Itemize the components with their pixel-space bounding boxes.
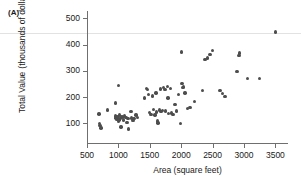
data-point bbox=[218, 89, 221, 92]
x-axis-tick-label: 3500 bbox=[258, 150, 292, 160]
data-point bbox=[117, 118, 120, 121]
y-axis-tick-label: 400 bbox=[54, 39, 80, 49]
y-axis-tick-label: 500 bbox=[54, 13, 80, 23]
data-point bbox=[125, 121, 128, 124]
data-point bbox=[152, 108, 155, 111]
data-point bbox=[208, 53, 211, 56]
y-axis-title: Total Value (thousands of dollars) bbox=[2, 0, 42, 110]
data-point bbox=[120, 115, 123, 118]
x-axis-tick-label: 1500 bbox=[133, 150, 167, 160]
x-axis-tick bbox=[213, 144, 214, 148]
data-point bbox=[114, 101, 117, 104]
data-point bbox=[114, 114, 117, 117]
data-point bbox=[146, 88, 149, 91]
data-point bbox=[163, 88, 166, 91]
data-point bbox=[182, 85, 185, 88]
data-point bbox=[155, 110, 158, 113]
x-axis-line bbox=[87, 143, 288, 144]
data-point bbox=[164, 109, 167, 112]
data-point bbox=[98, 122, 101, 125]
y-axis-tick bbox=[83, 97, 87, 98]
data-point bbox=[131, 119, 134, 122]
x-axis-tick bbox=[181, 144, 182, 148]
data-point bbox=[116, 117, 119, 120]
data-point bbox=[238, 51, 241, 54]
y-axis-title-line2: (thousands of dollars) bbox=[17, 0, 27, 69]
data-point bbox=[123, 114, 126, 117]
data-point bbox=[173, 103, 176, 106]
y-axis-title-line1: Total Value bbox=[17, 72, 27, 113]
data-point bbox=[99, 126, 102, 129]
y-axis-line bbox=[87, 11, 88, 143]
data-point bbox=[136, 116, 139, 119]
data-point bbox=[158, 108, 161, 111]
data-point bbox=[119, 117, 122, 120]
y-axis-tick-label: 300 bbox=[54, 65, 80, 75]
y-axis-tick bbox=[83, 123, 87, 124]
data-point bbox=[124, 116, 127, 119]
data-point bbox=[162, 86, 165, 89]
data-point bbox=[143, 96, 146, 99]
data-point bbox=[171, 113, 174, 116]
data-point bbox=[223, 95, 226, 98]
data-point bbox=[175, 109, 178, 112]
data-point bbox=[126, 117, 129, 120]
data-point bbox=[237, 54, 240, 57]
data-point bbox=[159, 87, 162, 90]
x-axis-tick-label: 2500 bbox=[196, 150, 230, 160]
data-point bbox=[167, 112, 170, 115]
x-axis-tick bbox=[87, 144, 88, 148]
data-point bbox=[170, 111, 173, 114]
data-point bbox=[117, 84, 120, 87]
data-point bbox=[151, 94, 154, 97]
x-axis-tick-label: 2000 bbox=[164, 150, 198, 160]
data-point bbox=[179, 122, 182, 125]
data-point bbox=[211, 49, 214, 52]
x-axis-tick bbox=[150, 144, 151, 148]
data-point bbox=[188, 106, 191, 109]
y-axis-tick bbox=[83, 71, 87, 72]
horizontal-rule bbox=[0, 33, 301, 34]
data-point bbox=[114, 116, 117, 119]
x-axis-tick bbox=[244, 144, 245, 148]
data-point bbox=[106, 108, 109, 111]
x-axis-tick-label: 1000 bbox=[101, 150, 135, 160]
data-point bbox=[156, 119, 159, 122]
data-point bbox=[193, 100, 196, 103]
data-point bbox=[117, 116, 120, 119]
data-point bbox=[159, 110, 162, 113]
data-point bbox=[246, 77, 249, 80]
data-point bbox=[147, 93, 150, 96]
x-axis-tick bbox=[118, 144, 119, 148]
data-point bbox=[169, 87, 172, 90]
x-axis-tick bbox=[275, 144, 276, 148]
data-point bbox=[115, 115, 118, 118]
y-axis-tick bbox=[83, 45, 87, 46]
data-point bbox=[201, 89, 204, 92]
data-point bbox=[206, 56, 209, 59]
data-point bbox=[98, 124, 101, 127]
scatter-plot-figure: (A) 100200300400500500100015002000250030… bbox=[0, 0, 301, 185]
data-point bbox=[118, 113, 121, 116]
data-point bbox=[181, 86, 184, 89]
y-axis-tick bbox=[83, 18, 87, 19]
data-point bbox=[122, 118, 125, 121]
data-point bbox=[183, 91, 186, 94]
data-point bbox=[166, 85, 169, 88]
data-point bbox=[130, 116, 133, 119]
data-point bbox=[258, 77, 261, 80]
data-point bbox=[154, 91, 157, 94]
y-axis-tick-label: 200 bbox=[54, 92, 80, 102]
data-point bbox=[97, 112, 100, 115]
data-point bbox=[145, 87, 148, 90]
data-point bbox=[186, 107, 189, 110]
x-axis-title: Area (square feet) bbox=[87, 165, 288, 175]
data-point bbox=[156, 121, 159, 124]
data-point bbox=[132, 117, 135, 120]
data-point bbox=[134, 113, 137, 116]
data-point bbox=[177, 93, 180, 96]
data-point bbox=[117, 120, 120, 123]
data-point bbox=[203, 58, 206, 61]
data-point bbox=[149, 113, 152, 116]
data-point bbox=[115, 118, 118, 121]
